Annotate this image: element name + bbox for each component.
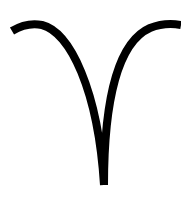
aries-icon xyxy=(0,0,181,201)
aries-symbol-container: Aries xyxy=(0,0,181,201)
